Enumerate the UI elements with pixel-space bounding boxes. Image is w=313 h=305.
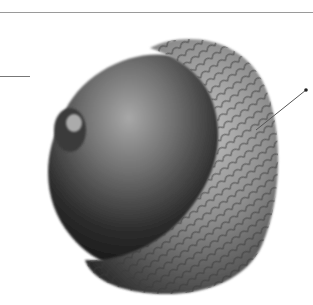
- right-leader-dot: [304, 88, 308, 92]
- acorn-tip: [54, 108, 86, 152]
- acorn-photo: [0, 0, 313, 305]
